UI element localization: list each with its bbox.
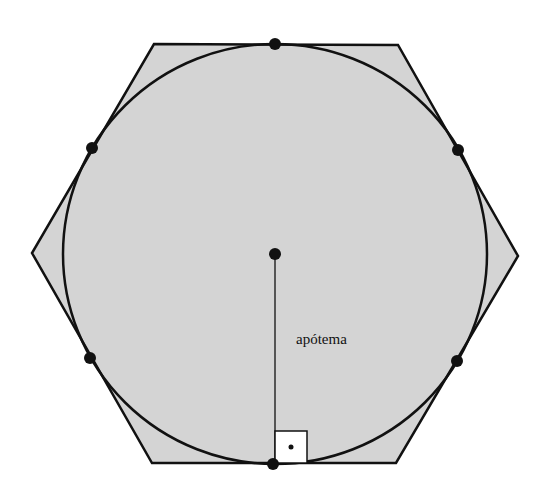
apothem-label: apótema [296, 331, 347, 347]
hexagon-diagram: apótema [0, 0, 548, 493]
tangent-point-lower-right [451, 355, 463, 367]
center-point [269, 248, 281, 260]
tangent-point-bottom [267, 458, 279, 470]
tangent-point-upper-right [452, 144, 464, 156]
right-angle-dot [289, 445, 294, 450]
tangent-point-lower-left [84, 352, 96, 364]
tangent-point-top [269, 38, 281, 50]
tangent-point-upper-left [86, 142, 98, 154]
